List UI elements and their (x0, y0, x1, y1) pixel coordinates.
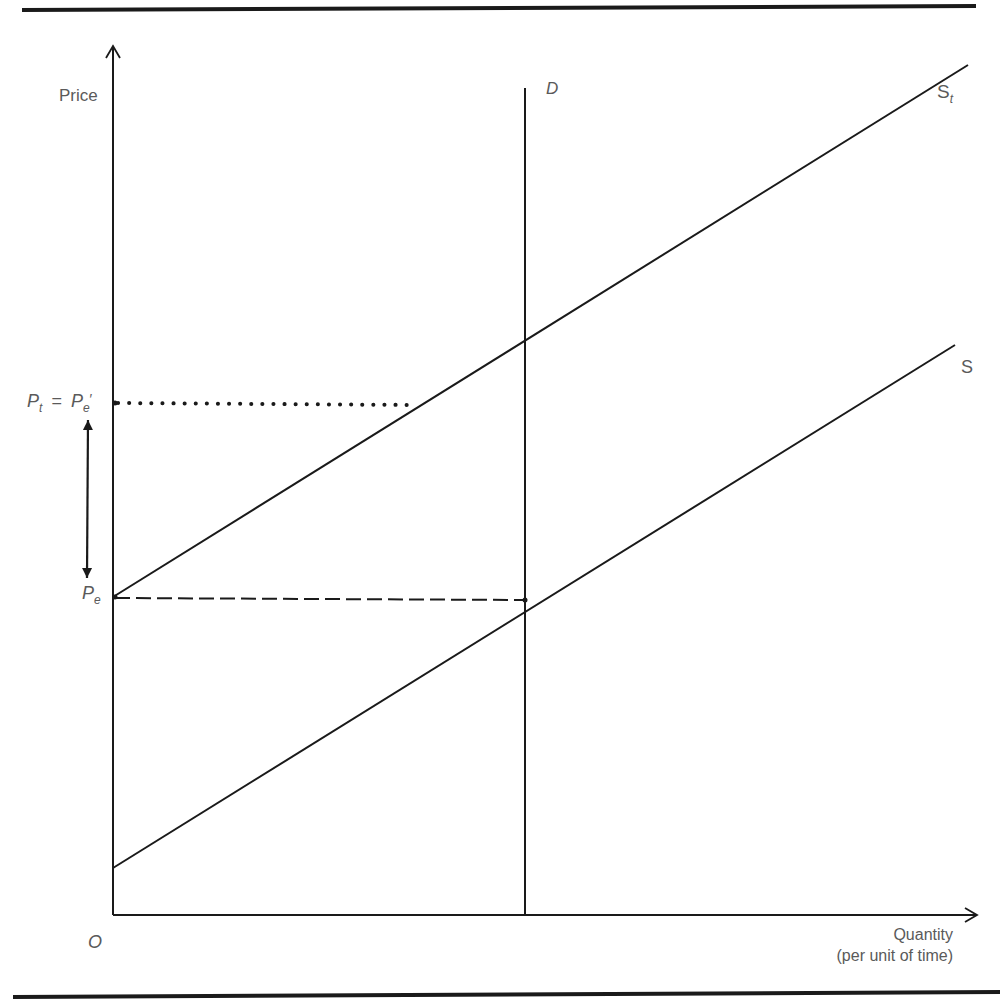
pe-subscript: e (94, 593, 101, 607)
supply-with-tax-subscript: t (950, 92, 953, 106)
supply-curve-label: S (961, 358, 973, 376)
tax-price-label: Pt = Pe′ (27, 392, 92, 410)
origin-label: O (88, 933, 102, 951)
pt-letter: P (27, 391, 39, 411)
pe-prime-letter: P (71, 391, 83, 411)
pt-subscript: t (39, 401, 42, 415)
price-axis-label: Price (59, 87, 98, 104)
quantity-label-line1: Quantity (837, 924, 953, 945)
supply-with-tax-curve (113, 65, 968, 597)
equilibrium-price-label: Pe (82, 584, 101, 602)
demand-curve-label: D (546, 80, 558, 97)
quantity-label-line2: (per unit of time) (837, 945, 953, 966)
pe-dashed-guide (115, 598, 525, 600)
tax-incidence-arrow (87, 420, 88, 578)
pe-letter: P (82, 583, 94, 603)
economics-diagram (0, 0, 1004, 1006)
quantity-axis-label: Quantity (per unit of time) (837, 924, 953, 966)
prime-mark: ′ (90, 391, 93, 407)
top-rule (22, 6, 976, 10)
supply-with-tax-label: St (937, 82, 953, 101)
pt-dotted-guide (118, 403, 415, 405)
pe-point-marker (113, 595, 118, 600)
supply-with-tax-letter: S (937, 81, 950, 102)
equals-sign: = (51, 391, 62, 411)
supply-curve (113, 345, 955, 868)
pt-point-marker (113, 401, 118, 406)
equilibrium-point (523, 598, 528, 603)
bottom-rule (13, 992, 1000, 997)
pe-prime-subscript: e (83, 401, 90, 415)
